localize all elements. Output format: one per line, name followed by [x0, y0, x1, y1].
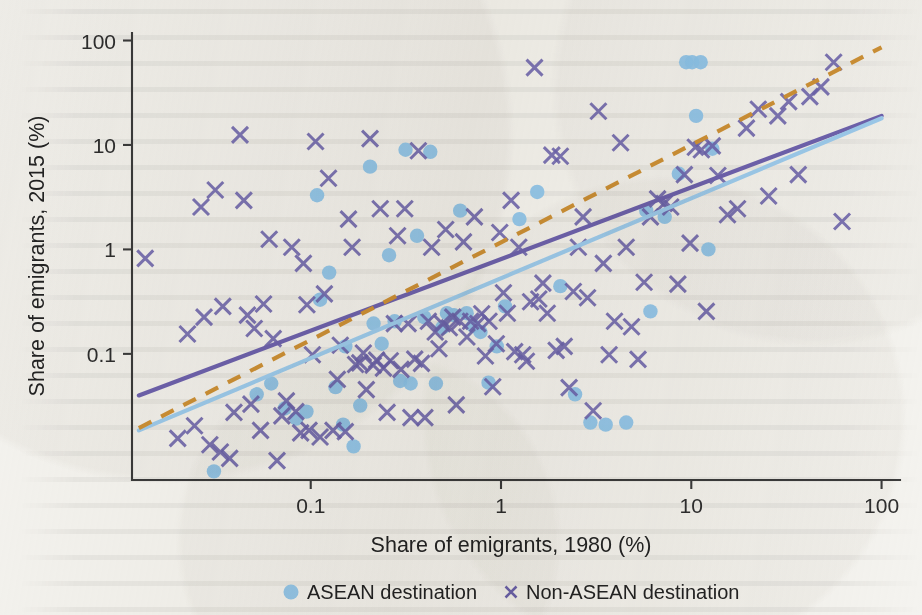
- data-point-non-asean: [232, 127, 248, 143]
- plot-canvas: 0.1110100 0.1110100 Share of emigrants, …: [0, 0, 922, 615]
- data-point-asean: [689, 109, 703, 123]
- data-point-non-asean: [269, 453, 285, 469]
- data-point-non-asean: [495, 285, 511, 301]
- data-point-asean: [374, 337, 388, 351]
- data-point-non-asean: [187, 418, 203, 434]
- data-point-non-asean: [397, 201, 413, 217]
- data-point-asean: [553, 279, 567, 293]
- data-point-non-asean: [431, 341, 447, 357]
- legend-asean-circle-icon: [284, 585, 299, 600]
- data-point-non-asean: [358, 382, 374, 398]
- data-point-non-asean: [137, 250, 153, 266]
- x-axis-title: Share of emigrants, 1980 (%): [371, 533, 652, 557]
- data-point-non-asean: [362, 131, 378, 147]
- axes-layer: 0.1110100 0.1110100: [81, 30, 900, 517]
- data-point-asean: [207, 464, 221, 478]
- data-point-asean: [643, 304, 657, 318]
- data-point-non-asean: [607, 313, 623, 329]
- data-point-non-asean: [256, 296, 272, 312]
- data-point-asean: [693, 55, 707, 69]
- data-point-non-asean: [575, 209, 591, 225]
- legend-non-asean-cross-icon: [506, 587, 517, 598]
- data-point-non-asean: [618, 239, 634, 255]
- data-point-asean: [701, 242, 715, 256]
- data-point-asean: [322, 265, 336, 279]
- data-point-non-asean: [481, 313, 497, 329]
- x-axis-ticks: 0.1110100: [296, 480, 899, 517]
- data-point-non-asean: [179, 326, 195, 342]
- data-point-non-asean: [215, 298, 231, 314]
- data-point-non-asean: [580, 290, 596, 306]
- y-tick-label: 1: [104, 238, 116, 261]
- data-point-non-asean: [308, 133, 324, 149]
- fit-line: [139, 118, 882, 430]
- x-tick-label: 10: [680, 494, 703, 517]
- data-point-non-asean: [613, 135, 629, 151]
- data-point-non-asean: [601, 347, 617, 363]
- data-point-non-asean: [518, 353, 534, 369]
- data-point-asean: [363, 159, 377, 173]
- data-point-non-asean: [193, 199, 209, 215]
- data-point-non-asean: [424, 239, 440, 255]
- data-point-non-asean: [284, 239, 300, 255]
- data-point-non-asean: [344, 239, 360, 255]
- data-point-non-asean: [698, 303, 714, 319]
- data-point-asean: [410, 229, 424, 243]
- data-point-asean: [429, 376, 443, 390]
- data-point-non-asean: [170, 430, 186, 446]
- data-point-non-asean: [438, 222, 454, 238]
- data-point-non-asean: [372, 201, 388, 217]
- scatter-chart-figure: 0.1110100 0.1110100 Share of emigrants, …: [0, 0, 922, 615]
- x-tick-label: 0.1: [296, 494, 325, 517]
- data-point-non-asean: [261, 231, 277, 247]
- data-point-non-asean: [413, 355, 429, 371]
- data-point-non-asean: [590, 103, 606, 119]
- axis-labels-layer: Share of emigrants, 1980 (%) Share of em…: [25, 116, 651, 557]
- data-point-non-asean: [222, 450, 238, 466]
- data-point-asean: [353, 398, 367, 412]
- y-axis-title: Share of emigrants, 2015 (%): [25, 116, 49, 397]
- data-point-non-asean: [207, 182, 223, 198]
- data-point-asean: [453, 203, 467, 217]
- data-point-non-asean: [403, 410, 419, 426]
- fit-line: [139, 47, 882, 428]
- data-point-asean: [599, 417, 613, 431]
- data-point-non-asean: [535, 275, 551, 291]
- data-point-non-asean: [455, 234, 471, 250]
- fit-lines-layer: [139, 47, 882, 430]
- data-point-asean: [382, 248, 396, 262]
- data-point-non-asean: [379, 404, 395, 420]
- data-point-non-asean: [321, 170, 337, 186]
- data-point-non-asean: [738, 120, 754, 136]
- y-tick-label: 100: [81, 30, 116, 53]
- data-point-non-asean: [539, 305, 555, 321]
- data-point-non-asean: [390, 228, 406, 244]
- data-point-non-asean: [565, 284, 581, 300]
- axis-frame: [132, 33, 900, 480]
- data-point-asean: [403, 376, 417, 390]
- data-point-non-asean: [448, 397, 464, 413]
- data-point-non-asean: [236, 192, 252, 208]
- data-point-non-asean: [196, 309, 212, 325]
- y-axis-ticks: 0.1110100: [81, 30, 132, 366]
- data-point-non-asean: [295, 255, 311, 271]
- data-point-non-asean: [202, 437, 218, 453]
- x-tick-label: 100: [864, 494, 899, 517]
- y-tick-label: 0.1: [87, 343, 116, 366]
- data-point-non-asean: [790, 167, 806, 183]
- data-point-non-asean: [503, 192, 519, 208]
- data-point-non-asean: [761, 188, 777, 204]
- data-point-asean: [310, 188, 324, 202]
- data-point-asean: [530, 185, 544, 199]
- data-point-non-asean: [212, 444, 228, 460]
- data-point-non-asean: [299, 297, 315, 313]
- data-point-non-asean: [623, 319, 639, 335]
- legend-label-non-asean: Non-ASEAN destination: [526, 581, 739, 603]
- data-point-non-asean: [682, 235, 698, 251]
- data-point-non-asean: [253, 422, 269, 438]
- y-tick-label: 10: [93, 134, 116, 157]
- data-point-non-asean: [770, 108, 786, 124]
- data-point-non-asean: [226, 404, 242, 420]
- fit-line: [139, 116, 882, 396]
- data-point-asean: [619, 415, 633, 429]
